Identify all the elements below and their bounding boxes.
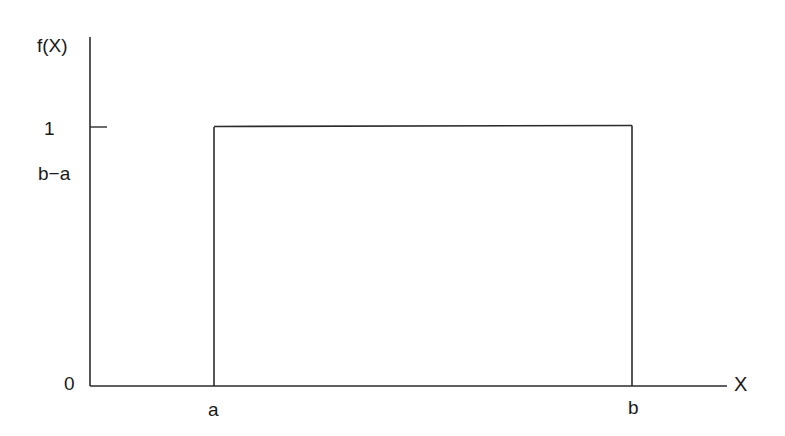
x-tick-a-label: a [208,400,219,419]
y-tick-numerator-label: 1 [44,119,55,138]
uniform-distribution-plot [0,0,785,436]
density-top-edge [214,126,632,127]
y-axis-label: f(X) [37,36,68,55]
x-axis-label: X [734,374,747,394]
origin-label: 0 [64,374,75,393]
x-tick-b-label: b [628,398,639,417]
y-tick-denominator-label: b−a [38,164,70,183]
